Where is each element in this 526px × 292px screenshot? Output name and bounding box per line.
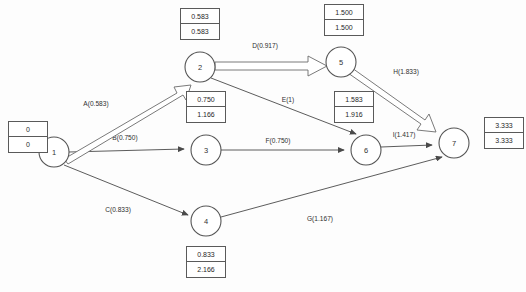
earliest-time: 0 (9, 122, 47, 137)
network-diagram-svg: B(0.750) C(0.833) E(1) F(0.750) G(1.167)… (0, 0, 526, 292)
node-4[interactable]: 4 (191, 206, 221, 236)
time-box-node-6: 1.583 1.916 (334, 91, 374, 123)
latest-time: 1.166 (187, 107, 225, 122)
latest-time: 0 (9, 137, 47, 152)
latest-time: 1.500 (325, 20, 363, 35)
edge-A: A(0.583) (64, 85, 191, 164)
earliest-time: 0.833 (187, 247, 225, 262)
node-3-label: 3 (204, 146, 208, 155)
time-box-node-5: 1.500 1.500 (324, 4, 364, 36)
node-2[interactable]: 2 (185, 52, 215, 82)
latest-time: 0.583 (181, 24, 219, 39)
node-6-label: 6 (364, 146, 368, 155)
edge-H-label: H(1.833) (393, 68, 419, 76)
edge-I-label: I(1.417) (393, 131, 416, 139)
time-box-node-3: 0.750 1.166 (186, 91, 226, 123)
latest-time: 2.166 (187, 262, 225, 277)
node-2-label: 2 (198, 63, 202, 72)
earliest-time: 3.333 (485, 118, 523, 133)
latest-time: 1.916 (335, 107, 373, 122)
edge-C: C(0.833) (64, 165, 188, 215)
edge-A-label: A(0.583) (83, 100, 108, 108)
time-box-node-4: 0.833 2.166 (186, 246, 226, 278)
node-1-label: 1 (52, 148, 56, 157)
network-diagram-canvas: B(0.750) C(0.833) E(1) F(0.750) G(1.167)… (0, 0, 526, 292)
edge-C-label: C(0.833) (105, 206, 131, 214)
earliest-time: 1.500 (325, 5, 363, 20)
node-4-label: 4 (204, 217, 208, 226)
edge-F-label: F(0.750) (266, 137, 291, 145)
edge-E-label: E(1) (282, 96, 294, 104)
latest-time: 3.333 (485, 133, 523, 148)
node-7[interactable]: 7 (439, 128, 469, 158)
edge-D-label: D(0.917) (252, 42, 278, 50)
edge-G-label: G(1.167) (307, 215, 333, 223)
time-box-node-7: 3.333 3.333 (484, 117, 524, 149)
earliest-time: 0.583 (181, 9, 219, 24)
time-box-node-1: 0 0 (8, 121, 48, 153)
node-3[interactable]: 3 (191, 135, 221, 165)
earliest-time: 0.750 (187, 92, 225, 107)
edge-F: F(0.750) (221, 137, 344, 150)
node-7-label: 7 (452, 139, 456, 148)
node-6[interactable]: 6 (351, 135, 381, 165)
earliest-time: 1.583 (335, 92, 373, 107)
time-box-node-2: 0.583 0.583 (180, 8, 220, 40)
edge-D: D(0.917) (215, 42, 327, 76)
node-5-label: 5 (339, 58, 343, 67)
node-5[interactable]: 5 (326, 47, 356, 77)
edge-I: I(1.417) (381, 131, 432, 147)
edge-G: G(1.167) (221, 157, 442, 223)
